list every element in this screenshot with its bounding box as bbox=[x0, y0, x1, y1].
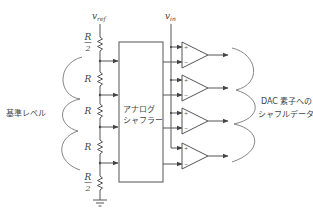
tap-connections bbox=[99, 60, 118, 164]
shuffled-data-label-line1: DAC 素子への bbox=[261, 96, 312, 106]
svg-text:R: R bbox=[84, 142, 92, 152]
output-brace bbox=[232, 48, 255, 162]
analog-shuffler-block: アナログ シャフラー bbox=[119, 42, 163, 182]
svg-text:+: + bbox=[184, 44, 188, 50]
resistor-r2 bbox=[98, 104, 103, 118]
shuffler-label-line2: シャフラー bbox=[123, 116, 163, 125]
resistor-labels: R 2 R R R R 2 bbox=[84, 32, 92, 193]
svg-text:R: R bbox=[84, 74, 92, 84]
svg-text:−: − bbox=[184, 125, 188, 131]
svg-text:2: 2 bbox=[84, 184, 90, 193]
vin-bus bbox=[170, 24, 182, 148]
comparator-1: + − bbox=[182, 42, 228, 68]
svg-text:2: 2 bbox=[84, 44, 90, 53]
shuffler-label-line1: アナログ bbox=[123, 104, 155, 114]
svg-text:R: R bbox=[84, 172, 92, 182]
resistor-r3 bbox=[98, 140, 103, 154]
svg-text:+: + bbox=[184, 110, 188, 116]
flash-adc-shuffler-diagram: vref R 2 R R R R 2 bbox=[0, 0, 313, 224]
svg-text:−: − bbox=[184, 161, 188, 167]
ground-icon bbox=[93, 200, 107, 206]
resistor-r1 bbox=[98, 72, 103, 86]
svg-text:R: R bbox=[84, 32, 92, 42]
svg-text:vin: vin bbox=[165, 11, 176, 22]
vref-label: vref bbox=[92, 11, 108, 23]
reference-level-label: 基準レベル bbox=[6, 108, 46, 118]
reference-level-brace bbox=[62, 57, 82, 170]
comparator-3: + − bbox=[182, 108, 228, 134]
svg-text:vref: vref bbox=[92, 11, 108, 23]
comparator-4: + − bbox=[182, 143, 228, 169]
comparator-2: + − bbox=[182, 75, 228, 101]
vin-label: vin bbox=[165, 11, 176, 22]
resistor-r2-bottom bbox=[98, 176, 103, 190]
svg-text:+: + bbox=[184, 77, 188, 83]
svg-text:R: R bbox=[84, 106, 92, 116]
shuffled-data-label-line2: シャフルデータ bbox=[258, 109, 313, 119]
svg-text:+: + bbox=[184, 145, 188, 151]
resistor-r2-top bbox=[98, 37, 103, 51]
resistor-ladder bbox=[98, 24, 103, 200]
svg-text:−: − bbox=[184, 59, 188, 65]
svg-text:−: − bbox=[184, 92, 188, 98]
